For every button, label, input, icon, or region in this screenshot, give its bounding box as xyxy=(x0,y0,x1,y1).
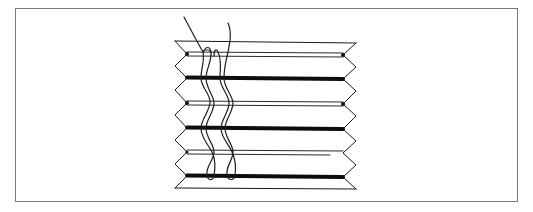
pleat-fold-thick-2 xyxy=(187,128,343,130)
eyelet-dot xyxy=(341,102,345,106)
bottom-rail-line xyxy=(175,188,356,189)
top-rail-line xyxy=(175,41,356,43)
pleat-fold-thick-1 xyxy=(187,78,343,80)
pleat-fold-double-3 xyxy=(185,150,343,155)
pleated-shade-diagram xyxy=(0,0,533,212)
pleat-fold-thick-3 xyxy=(187,176,343,178)
eyelet-dot xyxy=(185,52,189,56)
right-zigzag-edge xyxy=(343,43,356,189)
left-zigzag-edge xyxy=(175,41,187,188)
eyelet-dot xyxy=(185,101,189,105)
eyelet-dot xyxy=(341,53,345,57)
pleat-fold-double-1 xyxy=(185,52,345,57)
eyelet-dot xyxy=(185,150,188,153)
